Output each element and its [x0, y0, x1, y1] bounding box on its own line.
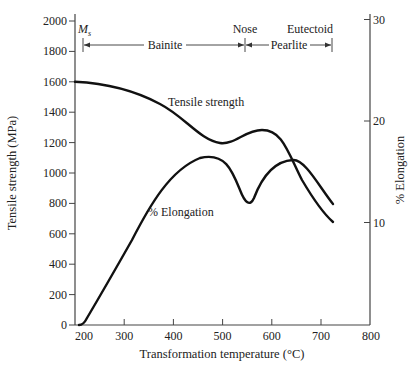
y-tick-label: 0 [61, 318, 67, 332]
x-tick-labels: 200 300 400 500 600 700 800 [75, 329, 380, 343]
x-tick-label: 700 [312, 329, 330, 343]
y-tick-label: 1600 [43, 75, 67, 89]
y-tick-label: 200 [49, 288, 67, 302]
y2-axis-title: % Elongation [393, 135, 407, 204]
y-tick-label: 1200 [43, 136, 67, 150]
x-tick-label: 600 [263, 329, 281, 343]
elongation-label: % Elongation [148, 205, 214, 219]
chart: 0 200 400 600 800 1000 1200 1400 1600 18… [0, 0, 412, 372]
eutectoid-label: Eutectoid [287, 22, 333, 36]
y-tick-labels-left: 0 200 400 600 800 1000 1200 1400 1600 18… [43, 14, 67, 332]
x-ticks [124, 319, 321, 325]
ms-label: Ms [77, 22, 91, 38]
bainite-label: Bainite [148, 38, 183, 52]
y2-tick-label: 10 [373, 216, 385, 230]
pearlite-label: Pearlite [271, 38, 308, 52]
y-tick-label: 800 [49, 196, 67, 210]
axes [75, 14, 370, 325]
y-tick-label: 1800 [43, 44, 67, 58]
x-tick-label: 300 [115, 329, 133, 343]
y-tick-label: 1000 [43, 166, 67, 180]
y-ticks-right [364, 20, 370, 223]
x-tick-label: 400 [164, 329, 182, 343]
y-tick-labels-right: 10 20 30 [373, 13, 385, 230]
y-tick-label: 1400 [43, 105, 67, 119]
x-tick-label: 800 [362, 329, 380, 343]
y-tick-label: 2000 [43, 14, 67, 28]
tensile-strength-label: Tensile strength [168, 95, 244, 109]
y-tick-label: 400 [49, 257, 67, 271]
y-axis-title: Tensile strength (MPa) [5, 116, 19, 230]
y-ticks-left [69, 21, 75, 325]
y2-tick-label: 30 [373, 13, 385, 27]
x-tick-label: 200 [75, 329, 93, 343]
x-axis-title: Transformation temperature (°C) [140, 347, 305, 361]
x-tick-label: 500 [214, 329, 232, 343]
nose-label: Nose [233, 22, 258, 36]
y-tick-label: 600 [49, 227, 67, 241]
y2-tick-label: 20 [373, 114, 385, 128]
elongation-curve [79, 157, 333, 325]
